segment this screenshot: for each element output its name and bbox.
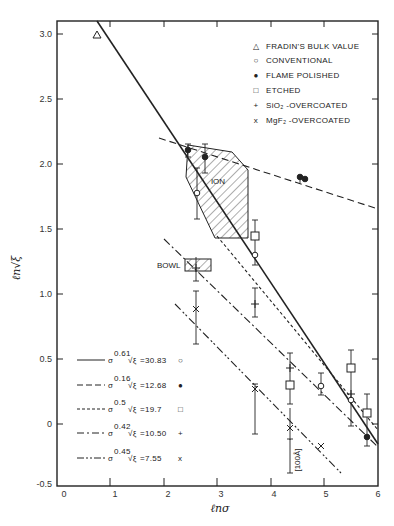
scale-label: [100Å] — [293, 448, 302, 471]
y-axis-title: ℓn√ξ — [10, 255, 23, 281]
x-tick-label: 5 — [323, 489, 328, 499]
svg-text:=30.83: =30.83 — [140, 356, 167, 365]
marker-x — [318, 443, 324, 449]
marker-circle — [318, 383, 324, 389]
y-tick-label: 1.0 — [39, 289, 52, 299]
legend-symbol: △ — [253, 42, 260, 51]
svg-text:σ: σ — [108, 356, 113, 365]
x-tick-label: 2 — [165, 489, 170, 499]
marker-filled-circle — [364, 434, 370, 440]
svg-text:=7.55: =7.55 — [140, 454, 162, 463]
x-tick-label: 0 — [61, 489, 66, 499]
marker-plus — [347, 390, 355, 398]
svg-text:σ: σ — [108, 429, 113, 438]
svg-text:x: x — [178, 454, 182, 463]
scientific-plot: -0.5 0 0.5 1.0 1.5 2.0 2.5 3.0 ℓn√ξ 0 1 … — [0, 0, 394, 526]
marker-circle — [194, 190, 200, 196]
svg-text:=12.68: =12.68 — [140, 381, 167, 390]
y-tick-label: 0 — [47, 419, 52, 429]
plot-frame — [57, 21, 378, 486]
fit-legend-text: σ 0.61 √ξ =30.83 ○ σ 0.16 √ξ =12.68 ● σ … — [108, 349, 183, 463]
svg-text:σ: σ — [108, 405, 113, 414]
svg-text:+: + — [178, 429, 183, 438]
svg-text:□: □ — [178, 405, 183, 414]
x-tick-label: 4 — [271, 489, 276, 499]
marker-triangle — [93, 31, 101, 38]
legend-label: ETCHED — [266, 86, 301, 95]
x-axis-title: ℓnσ — [210, 502, 230, 515]
x-tick-label: 1 — [112, 489, 117, 499]
legend-symbol: x — [254, 116, 258, 125]
fit-legend — [77, 360, 105, 458]
legend-symbol: + — [254, 101, 259, 110]
ion-label: ION — [211, 177, 225, 186]
svg-text:√ξ: √ξ — [128, 381, 137, 390]
svg-text:√ξ: √ξ — [128, 405, 137, 414]
marker-filled-circle — [302, 176, 308, 182]
legend-label: MgF₂ -OVERCOATED — [266, 116, 350, 125]
marker-circle — [252, 252, 258, 258]
svg-text:√ξ: √ξ — [128, 429, 137, 438]
marker-square — [286, 381, 294, 389]
marker-legend: △ FRADIN'S BULK VALUE ○ CONVENTIONAL ● F… — [253, 42, 359, 125]
marker-plus — [251, 300, 259, 308]
y-tick-label: 0.5 — [39, 354, 52, 364]
bowl-label: BOWL — [157, 261, 181, 270]
marker-filled-circle — [202, 154, 208, 160]
legend-symbol: ○ — [253, 56, 258, 65]
x-axis: 0 1 2 3 4 5 6 ℓnσ — [61, 21, 380, 515]
svg-text:●: ● — [178, 381, 183, 390]
marker-filled-circle — [185, 147, 191, 153]
marker-square — [347, 364, 355, 372]
y-tick-label: -0.5 — [36, 479, 52, 489]
y-tick-label: 1.5 — [39, 224, 52, 234]
marker-square — [251, 232, 259, 240]
svg-text:√ξ: √ξ — [128, 356, 137, 365]
marker-plus — [286, 364, 294, 372]
legend-label: SiO₂ -OVERCOATED — [266, 101, 348, 110]
bowl-box: BOWL — [157, 259, 211, 271]
svg-text:√ξ: √ξ — [128, 454, 137, 463]
y-tick-label: 3.0 — [39, 29, 52, 39]
svg-text:σ: σ — [108, 381, 113, 390]
svg-text:=19.7: =19.7 — [140, 405, 162, 414]
legend-label: FRADIN'S BULK VALUE — [266, 42, 359, 51]
legend-label: CONVENTIONAL — [266, 56, 333, 65]
legend-symbol: ● — [253, 71, 258, 80]
y-tick-label: 2.0 — [39, 159, 52, 169]
marker-square — [363, 409, 371, 417]
svg-text:σ: σ — [108, 454, 113, 463]
svg-text:○: ○ — [178, 356, 183, 365]
legend-symbol: □ — [253, 86, 258, 95]
fit-line-mgf2 — [175, 304, 341, 473]
svg-text:=10.50: =10.50 — [140, 429, 167, 438]
marker-circle — [348, 397, 354, 403]
x-tick-label: 6 — [375, 489, 380, 499]
svg-text:0.5: 0.5 — [114, 398, 126, 407]
y-tick-label: 2.5 — [39, 94, 52, 104]
x-tick-label: 3 — [218, 489, 223, 499]
legend-label: FLAME POLISHED — [266, 71, 340, 80]
